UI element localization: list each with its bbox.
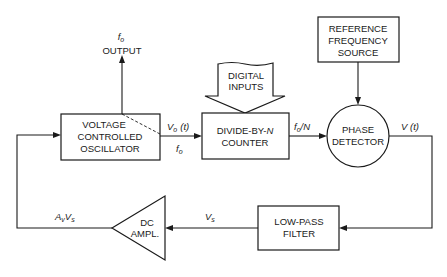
vco-block: VOLTAGE CONTROLLED OSCILLATOR <box>61 114 160 160</box>
pd-label-line1: PHASE <box>342 124 374 135</box>
arrowhead-icon <box>165 225 173 231</box>
amp-label-line1: DC <box>140 217 154 228</box>
vco-freq-label: fo <box>176 143 183 155</box>
divider-to-pd-path <box>289 133 327 139</box>
divider-block: DIVIDE-BY-N COUNTER <box>202 113 289 159</box>
vco-label-line1: VOLTAGE <box>82 119 125 130</box>
arrowhead-icon <box>339 225 347 231</box>
arrowhead-icon <box>53 132 61 138</box>
filter-to-amp-path <box>165 225 258 231</box>
vco-label-line3: OSCILLATOR <box>80 143 139 154</box>
digital-inputs-line2: INPUTS <box>229 81 264 92</box>
arrowhead-icon <box>119 55 125 63</box>
phase-detector-block: PHASE DETECTOR <box>327 105 389 167</box>
arrowhead-icon <box>319 133 327 139</box>
pd-output-label: V (t) <box>401 121 419 132</box>
output-label: fo OUTPUT <box>102 31 141 56</box>
low-pass-filter-block: LOW-PASS FILTER <box>258 206 339 250</box>
divided-freq-label: fo/N <box>294 121 310 133</box>
output-freq-symbol: fo <box>118 31 125 43</box>
vco-output-labels: Vo(t) fo <box>167 121 189 155</box>
vco-label-line2: CONTROLLED <box>78 131 143 142</box>
dc-amplifier-block: DC AMPL. <box>112 196 165 260</box>
amp-label-line2: AMPL. <box>131 228 160 239</box>
reference-label-line1: REFERENCE <box>329 23 388 34</box>
pll-block-diagram: VOLTAGE CONTROLLED OSCILLATOR fo OUTPUT … <box>0 0 447 277</box>
reference-to-pd-path <box>355 62 361 105</box>
vco-to-divider-path <box>160 133 202 139</box>
lpf-label-line1: LOW-PASS <box>274 216 323 227</box>
divider-label-line1: DIVIDE-BY-N <box>217 125 274 136</box>
reference-label-line3: SOURCE <box>338 47 379 58</box>
vco-voltage-label: Vo(t) <box>167 121 189 133</box>
digital-inputs-arrow: DIGITAL INPUTS <box>205 63 285 114</box>
divider-label-line2: COUNTER <box>222 137 269 148</box>
arrowhead-icon <box>194 133 202 139</box>
lpf-label-line2: FILTER <box>283 228 315 239</box>
filter-output-label: Vs <box>205 211 215 223</box>
arrowhead-icon <box>355 97 361 105</box>
output-text: OUTPUT <box>102 45 141 56</box>
output-path <box>119 55 125 114</box>
amp-output-label: AvVs <box>54 211 75 223</box>
pd-label-line2: DETECTOR <box>332 136 384 147</box>
digital-inputs-line1: DIGITAL <box>228 70 264 81</box>
reference-label-line2: FREQUENCY <box>328 35 388 46</box>
reference-block: REFERENCE FREQUENCY SOURCE <box>318 17 399 62</box>
